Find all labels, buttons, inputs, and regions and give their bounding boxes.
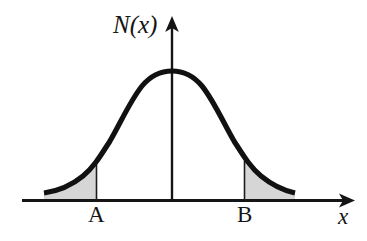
- x-axis-label: x: [338, 205, 348, 228]
- y-axis-label: N(x): [113, 12, 157, 37]
- normal-distribution-figure: [0, 0, 367, 241]
- boundary-label-a: A: [88, 203, 105, 226]
- boundary-label-b: B: [237, 203, 252, 226]
- normal-distribution-curve: [44, 71, 295, 193]
